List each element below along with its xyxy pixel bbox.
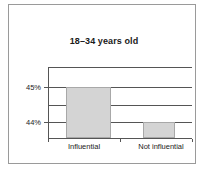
x-tick-mark-middle: [120, 139, 121, 142]
y-tick-label-44: 44%: [11, 118, 41, 127]
gridline-top: [48, 67, 192, 68]
y-tick-label-45: 45%: [11, 83, 41, 92]
plot-area: [48, 67, 192, 138]
y-axis-line: [48, 67, 49, 139]
y-tick-mark-45: [44, 87, 48, 88]
x-tick-label-influential: Influential: [54, 142, 114, 151]
x-tick-label-not-influential: Not influential: [128, 142, 194, 151]
chart-title: 18–34 years old: [0, 36, 208, 46]
bar-not-influential: [143, 122, 175, 138]
bar-influential: [66, 87, 111, 138]
x-tick-mark-left: [48, 139, 49, 142]
y-tick-mark-44: [44, 122, 48, 123]
chart-figure: 18–34 years old 45% 44% Influential Not …: [0, 0, 208, 173]
